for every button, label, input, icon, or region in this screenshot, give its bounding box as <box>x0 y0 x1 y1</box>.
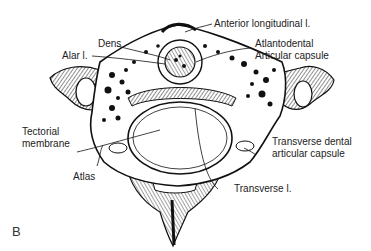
right-transverse-process <box>282 67 334 110</box>
label-transverse-ligament: Transverse l. <box>234 183 291 194</box>
vertebral-foramen <box>128 102 232 174</box>
label-transverse-dental-line2: articular capsule <box>272 148 345 159</box>
panel-letter: B <box>12 224 21 239</box>
label-atlantodental-line2: Articular capsule <box>255 50 329 61</box>
label-atlantodental-line1: Atlantodental <box>255 38 313 49</box>
label-dens: Dens <box>98 38 121 49</box>
label-atlas: Atlas <box>73 171 95 182</box>
label-alar-ligament: Alar l. <box>62 50 88 61</box>
anatomy-figure: Anterior longitudinal l. Dens Alar l. At… <box>0 0 371 251</box>
label-anterior-longitudinal-ligament: Anterior longitudinal l. <box>214 18 310 29</box>
label-transverse-dental-line1: Transverse dental <box>272 136 352 147</box>
label-tectorial-line1: Tectorial <box>22 126 59 137</box>
label-tectorial-line2: membrane <box>22 138 70 149</box>
dens <box>158 40 202 84</box>
